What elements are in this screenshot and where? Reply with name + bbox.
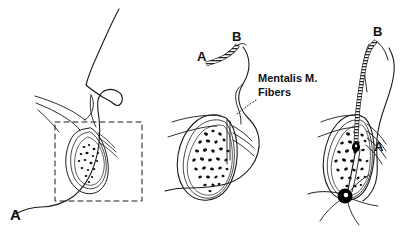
implant-end-b-label-right: B bbox=[373, 25, 382, 40]
mentalis-annotation-line1: Mentalis M. bbox=[258, 72, 317, 84]
implant-strip-vertical bbox=[356, 41, 376, 145]
marrow-speckles-b bbox=[192, 129, 230, 192]
implant-strip-horizontal bbox=[206, 44, 246, 65]
implant-end-a-label-middle: A bbox=[197, 50, 206, 65]
annotation-leader-line bbox=[237, 100, 256, 114]
region-of-interest-box bbox=[55, 122, 142, 201]
panel-a-profile bbox=[15, 9, 142, 214]
diagram-canvas bbox=[0, 0, 407, 234]
panel-c-section bbox=[308, 41, 394, 225]
suture-knot bbox=[338, 189, 353, 204]
implant-end-b-label-middle: B bbox=[232, 30, 241, 45]
panel-b-section bbox=[165, 44, 259, 201]
implant-point-a-marker bbox=[352, 142, 360, 152]
anatomical-figure: A A B B A Mentalis M. Fibers bbox=[0, 0, 407, 234]
implant-end-a-label-right: A bbox=[374, 140, 383, 155]
marrow-speckles-c bbox=[334, 130, 369, 187]
panel-a-label: A bbox=[10, 207, 21, 224]
mentalis-annotation-line2: Fibers bbox=[258, 86, 291, 98]
